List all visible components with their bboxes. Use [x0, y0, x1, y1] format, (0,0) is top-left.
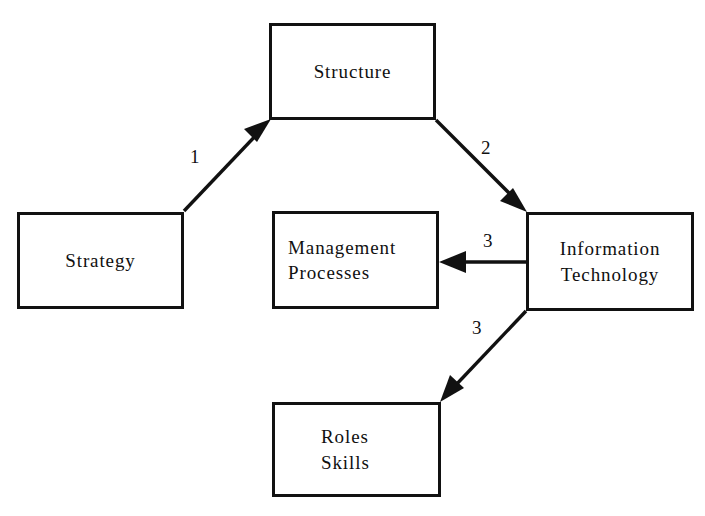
node-information-technology-label-line-2: Technology	[561, 262, 659, 287]
edge-label-2: 2	[481, 138, 491, 157]
diagram-canvas: Structure Strategy Management Processes …	[0, 0, 705, 516]
node-roles-skills-label-line-2: Skills	[275, 450, 438, 475]
edge-2-structure-to-information-technology	[436, 120, 527, 212]
node-information-technology[interactable]: Information Technology	[526, 212, 694, 311]
arrowhead-edge-2	[500, 188, 527, 212]
node-management-processes-label-line-1: Management	[275, 235, 436, 260]
node-strategy-label-line-1: Strategy	[65, 248, 136, 273]
node-information-technology-label-line-1: Information	[560, 236, 661, 261]
arrowhead-edge-3a	[439, 251, 466, 273]
node-management-processes[interactable]: Management Processes	[272, 211, 439, 309]
node-roles-skills-label-line-1: Roles	[275, 424, 438, 449]
edge-label-3a: 3	[483, 231, 493, 250]
edge-3a-information-technology-to-management-processes	[439, 251, 526, 273]
edge-3b-information-technology-to-roles-skills	[440, 311, 526, 402]
node-management-processes-label-line-2: Processes	[275, 260, 436, 285]
arrowhead-edge-1	[244, 119, 271, 142]
node-structure-label-line-1: Structure	[314, 59, 392, 84]
edge-label-1: 1	[190, 147, 200, 166]
edge-label-3b: 3	[472, 318, 482, 337]
node-roles-skills[interactable]: Roles Skills	[272, 402, 441, 497]
node-structure[interactable]: Structure	[269, 23, 436, 120]
node-strategy[interactable]: Strategy	[17, 212, 184, 309]
